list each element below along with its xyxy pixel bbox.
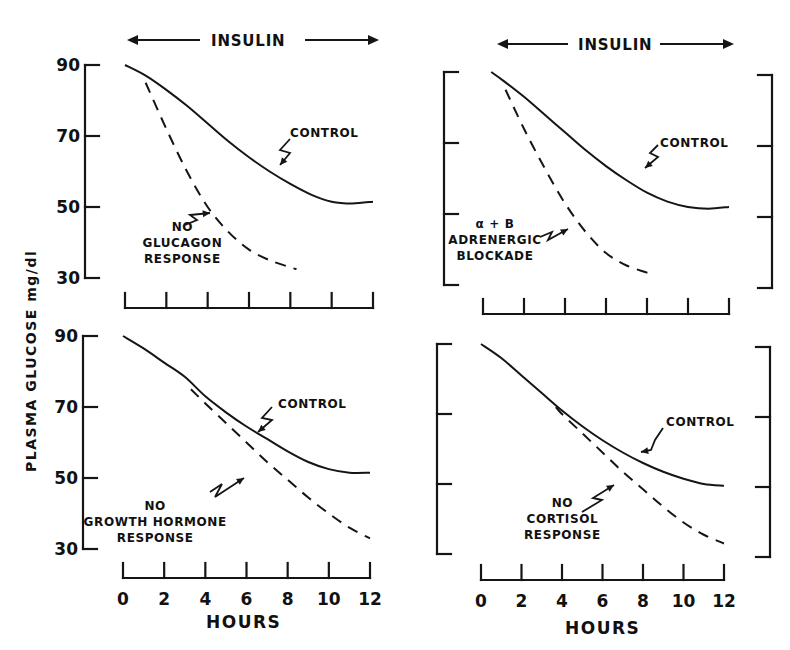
arrowhead-left-icon xyxy=(497,39,508,49)
x-tick-label: 0 xyxy=(475,591,487,611)
x-tick-label: 10 xyxy=(672,591,696,611)
experimental-label-line: CORTISOL xyxy=(527,512,599,526)
experimental-label-line: GROWTH HORMONE xyxy=(84,515,227,529)
control-label: CONTROL xyxy=(290,126,359,140)
x-tick-label: 4 xyxy=(199,589,211,609)
x-axis: 024681012 xyxy=(117,563,382,609)
experimental-label-line: GLUCAGON xyxy=(142,236,222,250)
y-tick-label: 90 xyxy=(54,326,78,346)
y-tick-label: 50 xyxy=(54,468,78,488)
control-label: CONTROL xyxy=(660,136,729,150)
panel-no-growth-hormone: 30507090024681012CONTROLNOGROWTH HORMONE… xyxy=(54,326,382,609)
x-tick-label: 12 xyxy=(712,591,736,611)
y-axis-right xyxy=(758,75,772,288)
y-tick-label: 30 xyxy=(56,268,80,288)
x-tick-label: 2 xyxy=(158,589,170,609)
y-tick-label: 90 xyxy=(56,55,80,75)
experimental-label-line: RESPONSE xyxy=(524,528,601,542)
experimental-label-line: ADRENERGIC xyxy=(448,233,541,247)
x-tick-label: 6 xyxy=(597,591,609,611)
x-tick-label: 6 xyxy=(241,589,253,609)
panel-no-cortisol: 024681012CONTROLNOCORTISOLRESPONSE xyxy=(437,344,770,611)
y-tick-label: 50 xyxy=(56,197,80,217)
x-tick-label: 2 xyxy=(516,591,528,611)
y-axis-left xyxy=(437,344,451,554)
x-tick-label: 0 xyxy=(117,589,129,609)
panel-no-glucagon: 30507090CONTROLNOGLUCAGONRESPONSE xyxy=(56,55,373,308)
control-label: CONTROL xyxy=(666,415,735,429)
arrowhead-icon xyxy=(641,447,649,454)
x-axis xyxy=(483,299,729,314)
experimental-label-line: α + B xyxy=(476,217,515,231)
y-tick-label: 70 xyxy=(56,126,80,146)
insulin-label-left: INSULIN xyxy=(211,32,285,50)
insulin-annotation-right: INSULIN xyxy=(497,36,734,54)
figure-canvas: PLASMA GLUCOSE mg/dl 30507090CONTROLNOGL… xyxy=(0,0,790,650)
glucose-counterregulation-figure: PLASMA GLUCOSE mg/dl 30507090CONTROLNOGL… xyxy=(0,0,790,650)
insulin-annotation-left: INSULIN xyxy=(127,32,379,50)
y-tick-label: 30 xyxy=(54,539,78,559)
x-tick-label: 8 xyxy=(282,589,294,609)
control-label: CONTROL xyxy=(278,397,347,411)
x-axis: 024681012 xyxy=(475,565,736,611)
x-tick-label: 4 xyxy=(556,591,568,611)
experimental-label-line: RESPONSE xyxy=(117,531,194,545)
experimental-label-line: BLOCKADE xyxy=(457,249,534,263)
x-tick-label: 12 xyxy=(358,589,382,609)
x-axis xyxy=(125,293,373,308)
x-axis-label-left: HOURS xyxy=(206,612,281,632)
insulin-label-right: INSULIN xyxy=(578,36,652,54)
experimental-label-line: NO xyxy=(552,496,573,510)
y-axis-right xyxy=(756,347,770,557)
arrowhead-right-icon xyxy=(723,39,734,49)
x-axis-label-right: HOURS xyxy=(565,618,640,638)
arrowhead-right-icon xyxy=(368,35,379,45)
experimental-label-line: NO xyxy=(144,499,165,513)
panel-adrenergic-blockade: CONTROLα + BADRENERGICBLOCKADE xyxy=(444,72,772,314)
y-axis-left: 30507090 xyxy=(56,55,99,288)
x-tick-label: 8 xyxy=(637,591,649,611)
arrowhead-left-icon xyxy=(127,35,138,45)
experimental-label-line: RESPONSE xyxy=(144,252,221,266)
y-tick-label: 70 xyxy=(54,397,78,417)
squiggle-arrow-icon xyxy=(641,428,663,452)
y-axis-label: PLASMA GLUCOSE mg/dl xyxy=(23,250,39,472)
x-tick-label: 10 xyxy=(317,589,341,609)
